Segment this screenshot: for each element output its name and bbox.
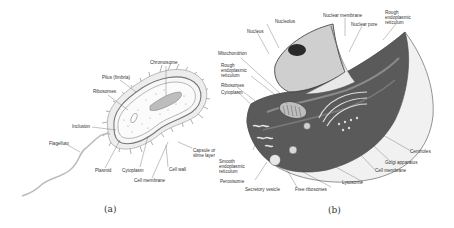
label-cell-wall: Cell wall [169,167,186,172]
label-flagellum: Flagellum [49,141,69,146]
label-mitochondrion: Mitochondrion [218,51,247,56]
label-ribosomes: Ribosomes [221,83,244,88]
label-nucleus: Nucleus [247,29,264,34]
label-nucleolus: Nucleolus [275,19,295,24]
panel-a-prokaryotic-cell: Chromosome Pilus (fimbria) Ribosomes Inc… [0,0,227,228]
label-rough-er-left: Rough endoplasmic reticulum [221,63,247,78]
label-smooth-er: Smooth endoplasmic reticulum [219,159,245,174]
label-ribosomes: Ribosomes [93,89,116,94]
label-cytoplasm: Cytoplasm [122,168,144,173]
label-pilus: Pilus (fimbria) [102,75,130,80]
label-chromosome: Chromosome [150,60,178,65]
panel-b-eukaryotic-cell: Nucleus Nucleolus Nuclear membrane Nucle… [227,0,454,228]
label-free-ribosomes: Free ribosomes [295,187,327,192]
label-peroxisome: Peroxisome [220,179,244,184]
caption-b: (b) [328,205,341,215]
eukaryote-illustration [227,0,454,228]
prokaryote-illustration [0,0,227,228]
label-inclusion: Inclusion [72,124,90,129]
label-rough-er-top: Rough endoplasmic reticulum [385,10,411,25]
caption-a: (a) [104,204,116,214]
label-lysosome: Lysosome [342,180,363,185]
label-capsule: Capsule or slime layer [193,148,215,158]
label-golgi-apparatus: Golgi apparatus [385,160,417,165]
label-plasmid: Plasmid [95,168,111,173]
label-nuclear-pore: Nuclear pore [351,22,377,27]
label-cell-membrane: Cell membrane [134,178,165,183]
label-cell-membrane: Cell membrane [375,168,406,173]
label-secretory-vesicle: Secretory vesicle [245,187,280,192]
label-centrioles: Centrioles [410,149,431,154]
label-cytoplasm: Cytoplasm [221,90,243,95]
label-nuclear-membrane: Nuclear membrane [323,13,362,18]
